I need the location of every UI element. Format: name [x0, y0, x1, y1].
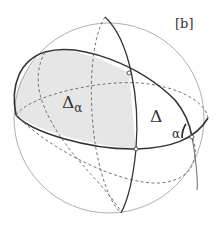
label-delta: Δ: [150, 106, 162, 126]
vertex-right: [190, 135, 194, 139]
vertex-bottom: [134, 147, 138, 151]
panel-label: [b]: [175, 16, 193, 31]
sphere-svg: Δα Δ α: [0, 0, 218, 228]
angle-arc: [182, 124, 186, 138]
spherical-triangle-diagram: Δα Δ α [b]: [0, 0, 218, 228]
vertex-top: [127, 71, 131, 75]
label-alpha: α: [172, 127, 180, 141]
shaded-lune-region: [15, 50, 136, 149]
